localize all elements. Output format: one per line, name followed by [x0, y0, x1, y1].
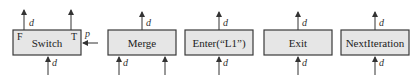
- switch-input-label: d: [52, 57, 58, 68]
- enter-input-label: d: [223, 57, 229, 68]
- switch-true-port: T: [71, 31, 77, 42]
- merge-output-label: d: [146, 17, 152, 28]
- switch-node: d F T Switch p d: [13, 10, 98, 75]
- switch-output-label: d: [29, 17, 35, 28]
- exit-node: d Exit d: [264, 12, 332, 75]
- exit-output-label: d: [302, 17, 308, 28]
- enter-output-label: d: [223, 17, 229, 28]
- nextiteration-output-label: d: [379, 17, 385, 28]
- nextiteration-node: d NextIteration d: [341, 12, 409, 75]
- switch-label: Switch: [32, 37, 63, 49]
- nextiteration-input-label: d: [379, 57, 385, 68]
- exit-input-label: d: [302, 57, 308, 68]
- enter-node: d Enter(“L1”) d: [185, 12, 253, 75]
- merge-input-label: d: [123, 57, 129, 68]
- merge-label: Merge: [128, 37, 157, 49]
- control-flow-diagram: d F T Switch p d d Merge d d Enter(“L1”)…: [0, 0, 420, 81]
- nextiteration-label: NextIteration: [346, 37, 405, 49]
- exit-label: Exit: [289, 37, 307, 49]
- switch-predicate-label: p: [84, 28, 90, 39]
- switch-false-port: F: [17, 31, 23, 42]
- enter-label: Enter(“L1”): [192, 37, 245, 50]
- merge-node: d Merge d: [108, 12, 176, 75]
